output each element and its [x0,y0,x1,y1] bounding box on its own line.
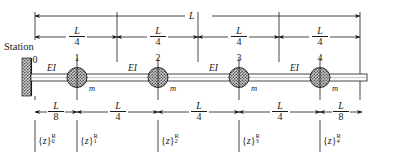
top-dimension-4-denominator: 4 [312,36,328,47]
station-number-4: 4 [315,52,325,63]
overall-length-label: L [189,10,195,21]
mass-label-2: m [170,83,176,93]
bottom-dimension-3: L 4 [191,101,207,122]
bottom-dimension-2: L 4 [110,101,126,122]
bottom-dimension-1-numerator: L [48,101,64,111]
bottom-dimension-5-numerator: L [333,101,349,111]
state-vector-0-subscript: 0 [52,137,55,144]
segment-label-3: EI [209,63,218,73]
state-vector-1: {z}R1 [80,134,100,146]
bottom-dimension-5-denominator: 8 [333,111,349,122]
state-vector-3: {z}R3 [242,134,262,146]
top-dimension-3: L 4 [231,26,247,47]
state-vector-2: {z}R2 [161,134,181,146]
state-vector-3-subscript: 3 [256,137,259,144]
bottom-dimension-1: L 8 [48,101,64,122]
mass-label-4: m [332,83,338,93]
top-dimension-2-numerator: L [150,26,166,36]
mass-label-3: m [251,83,257,93]
top-dimension-1: L 4 [69,26,85,47]
top-dimension-1-numerator: L [69,26,85,36]
top-dimension-3-denominator: 4 [231,36,247,47]
state-vector-4-subscript: 4 [337,137,340,144]
top-dimension-1-denominator: 4 [69,36,85,47]
figure-canvas: L L 4 L 4 L 4 L 4 Station 0 1 2 3 4 EI E… [0,0,397,158]
bottom-dimension-2-denominator: 4 [110,111,126,122]
bottom-dimension-1-denominator: 8 [48,111,64,122]
segment-label-2: EI [128,63,137,73]
state-vector-4: {z}R4 [323,134,343,146]
bottom-dimension-3-denominator: 4 [191,111,207,122]
bottom-dimension-3-numerator: L [191,101,207,111]
state-vector-1-subscript: 1 [94,137,97,144]
station-number-2: 2 [153,52,163,63]
bottom-dimension-4: L 4 [272,101,288,122]
bottom-dimension-4-denominator: 4 [272,111,288,122]
state-vector-2-subscript: 2 [175,137,178,144]
bottom-dimension-2-numerator: L [110,101,126,111]
bottom-dimension-5: L 8 [333,101,349,122]
top-dimension-4-numerator: L [312,26,328,36]
top-dimension-2: L 4 [150,26,166,47]
segment-label-4: EI [290,63,299,73]
mass-label-1: m [89,83,95,93]
state-vector-0: {z}R0 [38,134,58,146]
station-label: Station [4,41,34,52]
segment-label-1: EI [47,63,56,73]
bottom-dimension-4-numerator: L [272,101,288,111]
station-number-0: 0 [30,54,40,65]
station-number-1: 1 [72,52,82,63]
top-dimension-4: L 4 [312,26,328,47]
top-dimension-2-denominator: 4 [150,36,166,47]
top-dimension-3-numerator: L [231,26,247,36]
station-number-3: 3 [234,52,244,63]
